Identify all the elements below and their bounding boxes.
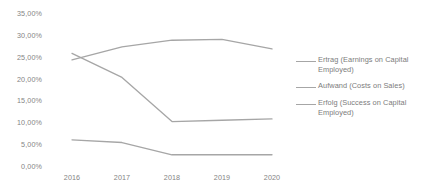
legend-item-label: Aufwand (Costs on Sales)	[318, 81, 405, 91]
legend-item[interactable]: Erfolg (Success on Capital Employed)	[296, 98, 435, 117]
legend-item[interactable]: Aufwand (Costs on Sales)	[296, 81, 435, 91]
plot-area	[0, 0, 300, 196]
legend-swatch-ertrag-icon	[296, 58, 316, 65]
legend-swatch-erfolg-icon	[296, 101, 316, 108]
legend-item-label: Erfolg (Success on Capital Employed)	[318, 98, 435, 117]
plot-svg	[0, 0, 300, 196]
series-line	[72, 140, 272, 155]
legend-item[interactable]: Ertrag (Earnings on Capital Employed)	[296, 55, 435, 74]
line-chart: 35,00%30,00%25,00%20,00%15,00%10,00%5,00…	[0, 0, 435, 196]
legend-swatch-aufwand-icon	[296, 84, 316, 91]
series-line	[72, 53, 272, 121]
chart-legend: Ertrag (Earnings on Capital Employed)Auf…	[296, 55, 435, 124]
legend-item-label: Ertrag (Earnings on Capital Employed)	[318, 55, 435, 74]
series-line	[72, 39, 272, 60]
